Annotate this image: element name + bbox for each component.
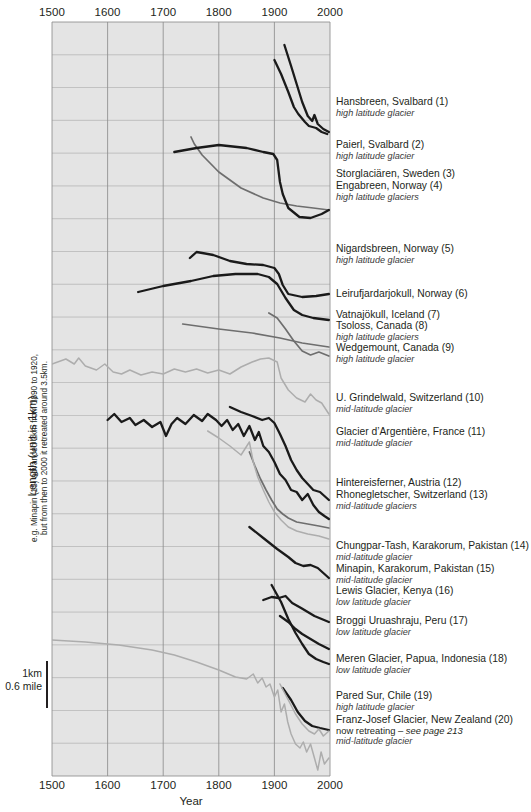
legend-item-name: U. Grindelwald, Switzerland (10) — [336, 392, 531, 404]
x-tick-top-1800: 1800 — [206, 6, 232, 18]
legend-item-subtitle: high latitude glaciers — [336, 332, 531, 342]
legend-item-subtitle: high latitude glaciers — [336, 192, 531, 202]
legend-item-6: Leirufjardarjokull, Norway (6) — [336, 288, 531, 300]
scale-bar-miles: 0.6 mile — [0, 680, 42, 693]
legend-item-14: Chungpar-Tash, Karakorum, Pakistan (14)m… — [336, 540, 531, 562]
scale-bar-labels: 1km 0.6 mile — [0, 667, 42, 692]
legend-item-name: Hansbreen, Svalbard (1) — [336, 96, 531, 108]
legend-item-11: Glacier d’Argentière, France (11)mid-lat… — [336, 426, 531, 448]
x-tick-bottom-1800: 1800 — [206, 779, 232, 791]
legend-item-16: Lewis Glacier, Kenya (16)low latitude gl… — [336, 585, 531, 607]
legend-item-9: Wedgemount, Canada (9)high latitude glac… — [336, 342, 531, 364]
legend-item-subtitle: high latitude glacier — [336, 354, 531, 364]
legend-item-name: Chungpar-Tash, Karakorum, Pakistan (14) — [336, 540, 531, 552]
legend-item-name: Wedgemount, Canada (9) — [336, 342, 531, 354]
legend-item-18: Meren Glacier, Papua, Indonesia (18)low … — [336, 653, 531, 675]
legend-item-name: Broggi Uruashraju, Peru (17) — [336, 615, 531, 627]
legend-item-19: Pared Sur, Chile (19)high latitude glaci… — [336, 690, 531, 712]
x-axis-title: Year — [179, 795, 202, 807]
legend-item-subtitle: mid-latitude glacier — [336, 552, 531, 562]
legend-item-17: Broggi Uruashraju, Peru (17)low latitude… — [336, 615, 531, 637]
legend-item-subtitle: mid-latitude glacier — [336, 575, 531, 585]
x-tick-top-1700: 1700 — [150, 6, 176, 18]
legend-item-name: Leirufjardarjokull, Norway (6) — [336, 288, 531, 300]
x-tick-top-1500: 1500 — [39, 6, 65, 18]
x-tick-bottom-1500: 1500 — [39, 779, 65, 791]
legend-item-3: Storglaciären, Sweden (3) — [336, 168, 531, 180]
legend-item-name: Minapin, Karakorum, Pakistan (15) — [336, 563, 531, 575]
legend-item-subtitle: high latitude glacier — [336, 108, 531, 118]
y-axis-caption-group: Length (unit is 1km) e.g. Minapin (15) a… — [0, 300, 40, 600]
legend-item-7: Vatnajökull, Iceland (7) — [336, 309, 531, 321]
legend-item-name: Glacier d’Argentière, France (11) — [336, 426, 531, 438]
legend-item-subtitle: low latitude glacier — [336, 597, 531, 607]
legend-item-name: Pared Sur, Chile (19) — [336, 690, 531, 702]
legend-item-2: Paierl, Svalbard (2)high latitude glacie… — [336, 139, 531, 161]
legend-item-12: Hintereisferner, Austria (12) — [336, 477, 531, 489]
glacier-length-chart: 1500 1600 1700 1800 1900 2000 1500 1600 … — [0, 0, 531, 812]
legend-item-subtitle: mid-latitude glacier — [336, 404, 531, 414]
legend-item-subtitle: mid-latitude glacier — [336, 736, 531, 746]
legend-item-name: Tsoloss, Canada (8) — [336, 320, 531, 332]
legend-item-name: Hintereisferner, Austria (12) — [336, 477, 531, 489]
legend-item-name: Rhonegletscher, Switzerland (13) — [336, 489, 531, 501]
x-tick-bottom-1700: 1700 — [150, 779, 176, 791]
legend-item-name: Paierl, Svalbard (2) — [336, 139, 531, 151]
plot-area — [52, 22, 330, 776]
x-tick-top-1600: 1600 — [95, 6, 121, 18]
y-axis-note: e.g. Minapin (15) advanced 2km from 1890… — [30, 298, 50, 598]
legend-item-name: Meren Glacier, Papua, Indonesia (18) — [336, 653, 531, 665]
legend-item-13: Rhonegletscher, Switzerland (13)mid-lati… — [336, 489, 531, 511]
y-axis-note-line-2: but from then to 2000 it retreated aroun… — [40, 298, 50, 598]
legend-item-4: Engabreen, Norway (4)high latitude glaci… — [336, 180, 531, 202]
legend-item-1: Hansbreen, Svalbard (1)high latitude gla… — [336, 96, 531, 118]
legend-item-10: U. Grindelwald, Switzerland (10)mid-lati… — [336, 392, 531, 414]
legend-item-15: Minapin, Karakorum, Pakistan (15)mid-lat… — [336, 563, 531, 585]
legend-item-subtitle: mid-latitude glacier — [336, 438, 531, 448]
legend-item-5: Nigardsbreen, Norway (5)high latitude gl… — [336, 243, 531, 265]
y-axis-note-line-1: e.g. Minapin (15) advanced 2km from 1890… — [30, 298, 40, 598]
x-tick-bottom-1900: 1900 — [261, 779, 287, 791]
legend-item-name: Nigardsbreen, Norway (5) — [336, 243, 531, 255]
legend-item-subtitle: high latitude glacier — [336, 702, 531, 712]
x-tick-top-1900: 1900 — [261, 6, 287, 18]
legend-item-name: Engabreen, Norway (4) — [336, 180, 531, 192]
legend-item-name: Storglaciären, Sweden (3) — [336, 168, 531, 180]
legend-item-note: now retreating – see page 213 — [336, 726, 531, 736]
legend-item-subtitle: high latitude glacier — [336, 151, 531, 161]
legend-item-20: Franz-Josef Glacier, New Zealand (20)now… — [336, 714, 531, 746]
legend-item-8: Tsoloss, Canada (8)high latitude glacier… — [336, 320, 531, 342]
legend-item-name: Vatnajökull, Iceland (7) — [336, 309, 531, 321]
legend-item-subtitle: low latitude glacier — [336, 665, 531, 675]
scale-bar-km: 1km — [0, 667, 42, 680]
scale-bar — [46, 661, 48, 708]
x-tick-bottom-1600: 1600 — [95, 779, 121, 791]
legend: Hansbreen, Svalbard (1)high latitude gla… — [336, 0, 531, 812]
legend-item-subtitle: high latitude glacier — [336, 255, 531, 265]
legend-item-subtitle: low latitude glacier — [336, 627, 531, 637]
legend-item-name: Lewis Glacier, Kenya (16) — [336, 585, 531, 597]
legend-item-subtitle: mid-latitude glaciers — [336, 501, 531, 511]
